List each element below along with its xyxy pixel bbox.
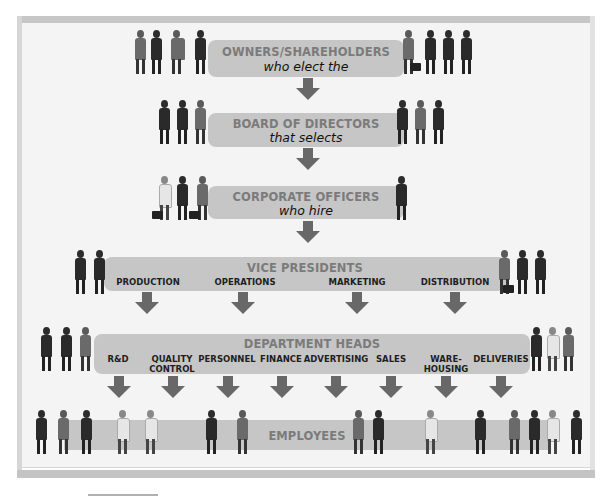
arrow-down-icon xyxy=(489,376,513,398)
board-title: BOARD OF DIRECTORS xyxy=(208,117,404,131)
arrow-down-icon xyxy=(216,376,240,398)
arrow-down-icon xyxy=(324,376,348,398)
vp-division-marketing: MARKETING xyxy=(328,277,385,287)
arrow-down-icon xyxy=(161,376,185,398)
officers-subtitle: who hire xyxy=(208,203,404,218)
arrow-down-icon xyxy=(296,148,320,170)
dept-rnd: R&D xyxy=(107,354,128,364)
dept-finance: FINANCE xyxy=(260,354,302,364)
dept-deliveries: DELIVERIES xyxy=(473,354,528,364)
briefcase-icon xyxy=(410,63,421,71)
owners-subtitle: who elect the xyxy=(208,59,404,74)
officers-banner: CORPORATE OFFICERS who hire xyxy=(208,186,404,219)
board-subtitle: that selects xyxy=(208,130,404,145)
caption-tab-stub xyxy=(88,494,158,496)
dept-advertising: ADVERTISING xyxy=(304,354,369,364)
board-banner: BOARD OF DIRECTORS that selects xyxy=(208,113,404,147)
frame-right-edge xyxy=(590,16,595,478)
arrow-down-icon xyxy=(434,376,458,398)
owners-banner: OWNERS/SHAREHOLDERS who elect the xyxy=(208,40,404,77)
vp-division-distribution: DISTRIBUTION xyxy=(421,277,490,287)
frame-left-edge xyxy=(17,16,22,478)
briefcase-icon xyxy=(152,211,163,219)
arrow-down-icon xyxy=(231,292,255,314)
dept-personnel: PERSONNEL xyxy=(198,354,255,364)
frame-bottom-edge xyxy=(17,470,595,478)
arrow-down-icon xyxy=(296,78,320,100)
arrow-down-icon xyxy=(135,292,159,314)
vp-division-operations: OPERATIONS xyxy=(214,277,275,287)
vp-division-production: PRODUCTION xyxy=(116,277,180,287)
arrow-down-icon xyxy=(270,376,294,398)
briefcase-icon xyxy=(189,211,200,219)
dept-sales: SALES xyxy=(376,354,406,364)
officers-title: CORPORATE OFFICERS xyxy=(208,190,404,204)
dept-heads-title: DEPARTMENT HEADS xyxy=(94,337,530,351)
dept-warehousing: WARE- HOUSING xyxy=(424,354,469,374)
arrow-down-icon xyxy=(107,376,131,398)
arrow-down-icon xyxy=(345,292,369,314)
arrow-down-icon xyxy=(443,292,467,314)
frame-top-edge xyxy=(17,16,595,23)
owners-title: OWNERS/SHAREHOLDERS xyxy=(208,45,404,59)
vp-title: VICE PRESIDENTS xyxy=(104,261,506,275)
arrow-down-icon xyxy=(379,376,403,398)
arrow-down-icon xyxy=(296,221,320,243)
dept-quality-control: QUALITY CONTROL xyxy=(149,354,195,374)
briefcase-icon xyxy=(503,285,514,293)
